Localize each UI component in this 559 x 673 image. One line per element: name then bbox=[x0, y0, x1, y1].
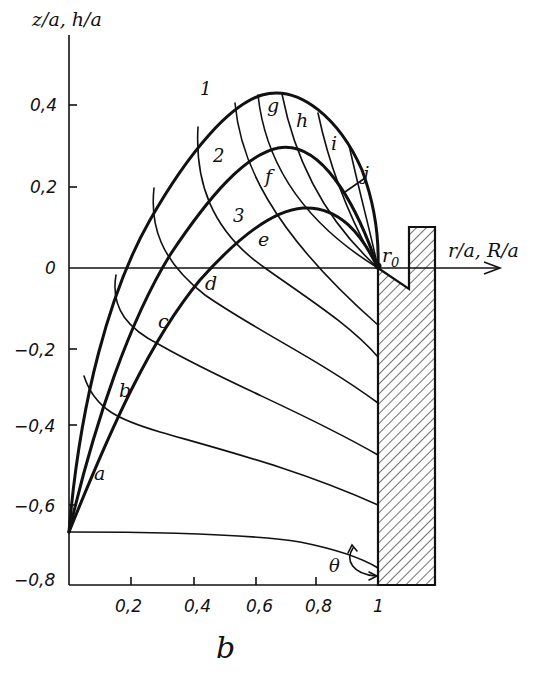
j-leader-line bbox=[345, 178, 365, 192]
label-curve-2: 2 bbox=[212, 145, 224, 166]
angle-label-theta: θ bbox=[329, 555, 340, 576]
y-tick-label: 0 bbox=[45, 258, 56, 278]
x-tick-label: 0,8 bbox=[305, 596, 332, 616]
label-curve-c: c bbox=[158, 310, 169, 332]
y-tick-label: −0,4 bbox=[14, 416, 55, 436]
contact-point-marker bbox=[375, 263, 382, 270]
label-curve-3: 3 bbox=[233, 205, 244, 226]
y-tick-label: −0,2 bbox=[14, 340, 55, 360]
x-tick-label: 0,2 bbox=[115, 596, 142, 616]
curve-2 bbox=[69, 147, 378, 532]
drop-profile-diagram: z/a, h/a r/a, R/a 0,4 0,2 0 −0,2 −0,4 −0… bbox=[0, 0, 559, 673]
y-axis-label: z/a, h/a bbox=[31, 8, 102, 30]
label-curve-h: h bbox=[296, 109, 308, 131]
x-tick-label: 0,4 bbox=[184, 596, 211, 616]
x-axis-label: r/a, R/a bbox=[448, 239, 519, 261]
x-ticks bbox=[131, 577, 316, 585]
point-label-r0: r0 bbox=[382, 244, 399, 270]
y-tick-label: −0,8 bbox=[14, 570, 55, 590]
label-curve-1: 1 bbox=[200, 78, 211, 99]
label-curve-g: g bbox=[267, 94, 279, 116]
y-tick-label: 0,4 bbox=[30, 95, 57, 115]
bottom-variable-label: b bbox=[216, 630, 235, 665]
label-curve-i: i bbox=[331, 132, 337, 154]
label-curve-e: e bbox=[258, 228, 269, 250]
y-tick-label: 0,2 bbox=[30, 177, 57, 197]
x-tick-label: 0,6 bbox=[246, 596, 273, 616]
label-curve-f: f bbox=[263, 165, 275, 187]
y-ticks bbox=[69, 105, 77, 505]
label-curve-b: b bbox=[119, 379, 131, 401]
x-tick-label: 1 bbox=[373, 596, 384, 616]
y-tick-label: −0,6 bbox=[14, 496, 55, 516]
curve-e bbox=[198, 127, 378, 357]
curve-c bbox=[115, 275, 378, 455]
label-curve-d: d bbox=[205, 272, 217, 294]
label-curve-a: a bbox=[94, 462, 105, 484]
wall bbox=[378, 227, 435, 585]
